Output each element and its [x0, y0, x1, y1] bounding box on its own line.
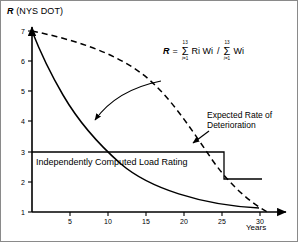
figure-container: 7 6 5 4 3 2 1 5 10 15 20 25 30 R (NYS DO… [0, 0, 298, 242]
load-rating-annotation: Independently Computed Load Rating [36, 157, 188, 167]
formula-denominator-term: Wi [233, 46, 244, 56]
y-tick-label-3: 3 [21, 149, 25, 156]
formula-equals: = [173, 46, 178, 56]
y-tick-label-2: 2 [21, 179, 25, 186]
deterioration-pointer-arrow [193, 131, 209, 143]
formula-denominator-lower: i=1 [224, 57, 230, 62]
x-axis-title: Years [246, 223, 266, 232]
y-tick-label-7: 7 [21, 28, 25, 35]
y-tick-label-1: 1 [21, 209, 25, 216]
expected-rate-annotation: Expected Rate of Deterioration [207, 111, 272, 130]
formula-pointer-arrow [95, 81, 161, 120]
formula-divider: / [217, 46, 220, 56]
y-tick-label-4: 4 [21, 118, 25, 125]
x-tick-label-15: 15 [142, 218, 150, 225]
formula-denominator-sum: 13 Σ i=1 [224, 41, 231, 61]
x-tick-label-20: 20 [180, 218, 188, 225]
y-axis-title-symbol: R [7, 6, 14, 16]
x-tick-label-10: 10 [104, 218, 112, 225]
y-tick-label-5: 5 [21, 88, 25, 95]
formula-variable: R [163, 46, 170, 56]
x-tick-label-25: 25 [218, 218, 226, 225]
formula-annotation: R = 13 Σ i=1 Ri Wi / 13 Σ i=1 Wi [163, 41, 245, 61]
x-tick-label-5: 5 [68, 218, 72, 225]
formula-numerator-sum: 13 Σ i=1 [182, 41, 189, 61]
y-axis-title-suffix: (NYS DOT) [16, 6, 63, 16]
formula-numerator-term: Ri Wi [192, 46, 214, 56]
y-tick-label-6: 6 [21, 58, 25, 65]
expected-rate-line-2: Deterioration [207, 121, 272, 131]
formula-numerator-lower: i=1 [182, 57, 188, 62]
y-axis-title: R (NYS DOT) [7, 6, 63, 16]
